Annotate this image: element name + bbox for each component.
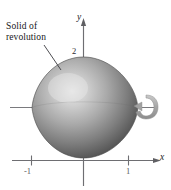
solid-of-revolution-body bbox=[32, 57, 138, 158]
y-axis-tick-label-2: 2 bbox=[72, 46, 76, 56]
x-axis-tick-label-1: 1 bbox=[126, 166, 130, 176]
annotation-leader-line bbox=[44, 45, 61, 70]
x-axis-label: x bbox=[160, 152, 164, 162]
annotation-line-2: revolution bbox=[6, 32, 46, 43]
solid-of-revolution-figure: Solid of revolution y x 2 -1 1 bbox=[0, 0, 171, 190]
x-axis-tick-label-neg-1: -1 bbox=[24, 166, 31, 176]
y-axis-arrowhead bbox=[81, 18, 86, 26]
y-axis-label: y bbox=[77, 12, 81, 22]
solid-of-revolution-annotation: Solid of revolution bbox=[6, 21, 46, 43]
annotation-line-1: Solid of bbox=[6, 21, 46, 32]
solid-highlight bbox=[48, 73, 88, 103]
